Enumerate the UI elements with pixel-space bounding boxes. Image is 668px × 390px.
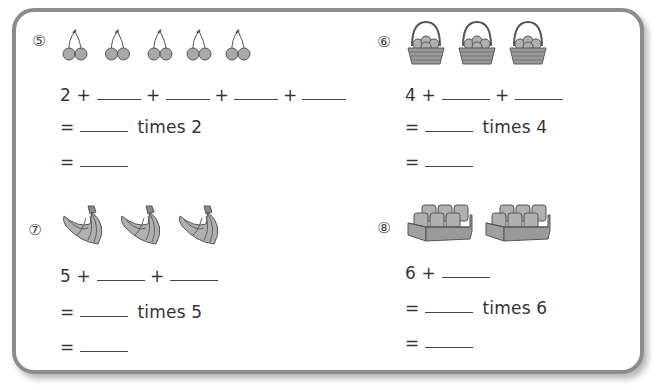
- problem-number: ⑥: [374, 32, 394, 52]
- banana-bunch-icon: [118, 204, 166, 246]
- can-pack-icon: [484, 201, 552, 245]
- answer-blank[interactable]: [97, 279, 145, 281]
- cherries-icon: [60, 26, 92, 62]
- result-line: =: [405, 152, 478, 172]
- cans-row: [406, 201, 552, 245]
- answer-blank[interactable]: [425, 346, 473, 348]
- cherries-row: [60, 26, 255, 62]
- result-line: =: [60, 337, 133, 357]
- problem-number: ⑦: [25, 220, 45, 240]
- cherries-icon: [145, 26, 177, 62]
- answer-blank[interactable]: [425, 311, 473, 313]
- answer-blank[interactable]: [166, 98, 210, 100]
- answer-blank[interactable]: [170, 279, 218, 281]
- apple-basket-icon: [457, 20, 497, 66]
- answer-blank[interactable]: [442, 98, 490, 100]
- answer-blank[interactable]: [80, 350, 128, 352]
- answer-blank[interactable]: [442, 276, 490, 278]
- cherries-icon: [99, 26, 138, 62]
- bananas-row: [60, 204, 224, 246]
- answer-blank[interactable]: [234, 98, 278, 100]
- problem-number: ⑧: [374, 218, 394, 238]
- addition-line: 4 + +: [405, 85, 568, 105]
- answer-blank[interactable]: [80, 315, 128, 317]
- apple-basket-icon: [406, 20, 446, 66]
- answer-blank[interactable]: [302, 98, 346, 100]
- answer-blank[interactable]: [80, 130, 128, 132]
- answer-blank[interactable]: [425, 130, 473, 132]
- times-line: = times 4: [405, 117, 547, 137]
- addition-line: 2 + + + +: [60, 85, 351, 105]
- times-line: = times 6: [405, 298, 547, 318]
- apple-basket-icon: [508, 20, 548, 66]
- cherries-icon: [223, 26, 255, 62]
- answer-blank[interactable]: [80, 165, 128, 167]
- result-line: =: [405, 333, 478, 353]
- baskets-row: [406, 20, 548, 66]
- cherries-icon: [184, 26, 216, 62]
- addition-line: 6 +: [405, 263, 495, 283]
- banana-bunch-icon: [60, 204, 108, 246]
- addition-line: 5 + +: [60, 266, 223, 286]
- answer-blank[interactable]: [515, 98, 563, 100]
- times-line: = times 2: [60, 117, 202, 137]
- problem-number: ⑤: [29, 31, 49, 51]
- banana-bunch-icon: [176, 204, 224, 246]
- answer-blank[interactable]: [425, 165, 473, 167]
- times-line: = times 5: [60, 302, 202, 322]
- can-pack-icon: [406, 201, 474, 245]
- answer-blank[interactable]: [97, 98, 141, 100]
- result-line: =: [60, 152, 133, 172]
